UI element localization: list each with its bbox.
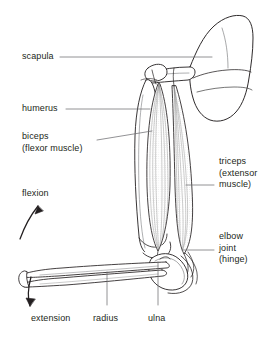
label-radius-text: radius	[93, 313, 118, 325]
flexion-arrow	[20, 206, 43, 239]
label-biceps-line2: (flexor muscle)	[22, 143, 83, 155]
label-biceps-line1: biceps	[22, 131, 83, 143]
label-scapula: scapula	[22, 51, 54, 63]
label-extension-text: extension	[31, 313, 70, 325]
label-radius: radius	[93, 313, 118, 325]
forearm-bones	[19, 257, 170, 288]
label-elbow-line3: (hinge)	[219, 254, 248, 266]
label-elbow-line1: elbow	[219, 231, 248, 243]
label-triceps-line3: muscle)	[219, 179, 257, 191]
label-humerus-text: humerus	[22, 103, 58, 115]
scapula-bone	[190, 15, 253, 121]
label-ulna-text: ulna	[148, 313, 165, 325]
label-extension: extension	[31, 313, 70, 325]
label-humerus: humerus	[22, 103, 58, 115]
label-flexion: flexion	[22, 188, 49, 200]
triceps-muscle	[172, 68, 195, 277]
label-biceps: biceps (flexor muscle)	[22, 131, 83, 154]
label-ulna: ulna	[148, 313, 165, 325]
label-flexion-text: flexion	[22, 188, 49, 200]
label-triceps-line1: triceps	[219, 156, 257, 168]
label-triceps: triceps (extensor muscle)	[219, 156, 257, 191]
label-triceps-line2: (extensor	[219, 168, 257, 180]
label-scapula-text: scapula	[22, 51, 54, 63]
anatomy-diagram: scapula humerus biceps (flexor muscle) f…	[0, 0, 272, 346]
label-elbow-joint: elbow joint (hinge)	[219, 231, 248, 266]
label-elbow-line2: joint	[219, 243, 248, 255]
